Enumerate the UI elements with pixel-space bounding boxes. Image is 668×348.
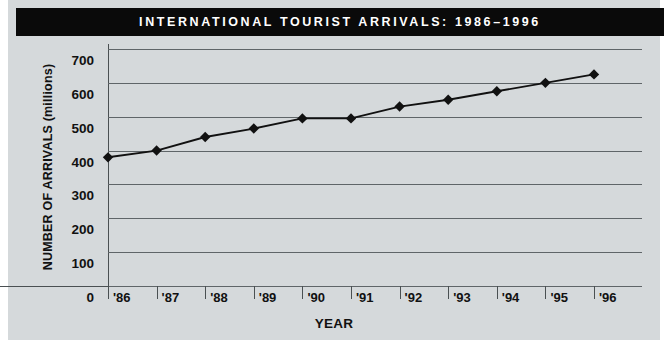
data-point-marker <box>200 132 210 142</box>
data-series-layer <box>0 0 668 348</box>
data-point-marker <box>492 86 502 96</box>
data-point-marker <box>249 123 259 133</box>
data-point-marker <box>589 69 599 79</box>
chart-figure: INTERNATIONAL TOURIST ARRIVALS: 1986–199… <box>0 0 668 348</box>
data-point-marker <box>346 113 356 123</box>
data-point-marker <box>540 78 550 88</box>
data-point-marker <box>394 101 404 111</box>
data-point-marker <box>151 145 161 155</box>
data-point-marker <box>103 152 113 162</box>
data-point-marker <box>297 113 307 123</box>
x-axis-title-text: YEAR <box>315 316 354 331</box>
x-axis-title: YEAR <box>0 316 668 331</box>
series-markers <box>103 69 599 162</box>
data-point-marker <box>443 95 453 105</box>
